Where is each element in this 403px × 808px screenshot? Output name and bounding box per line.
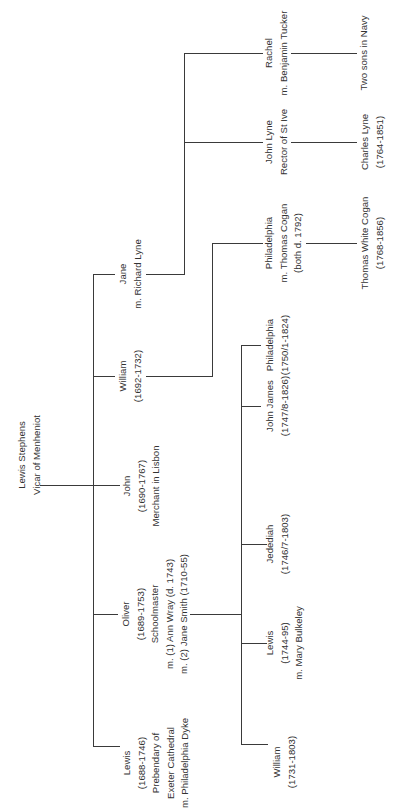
person-rachel: Rachel m. Benjamin Tucker: [262, 11, 291, 96]
root-connector: [40, 485, 93, 486]
stub-john-lyne: [184, 142, 263, 143]
person-philadelphia-cogan: Philadelphia m. Thomas Cogan (both d. 17…: [262, 204, 306, 283]
person-john: John (1690-1767) Merchant in Lisbon: [120, 445, 164, 526]
person-oliver: Oliver (1689-1753) Schoolmaster m. (1) A…: [119, 554, 192, 674]
stub-john: [93, 485, 120, 486]
person-william: William (1692-1732): [116, 350, 145, 402]
jane-connector: [146, 274, 185, 275]
stub-william: [93, 376, 115, 377]
stub-william-o: [241, 744, 268, 745]
stub-jane: [93, 274, 115, 275]
philadelphia-to-thomas: [306, 243, 357, 244]
stub-philadelphia-cogan: [212, 243, 263, 244]
stub-lewis: [93, 746, 120, 747]
stub-philadelphia-o: [241, 345, 261, 346]
person-john-lyne: John Lyne Rector of St Ive: [262, 109, 291, 175]
jane-spine: [184, 53, 185, 275]
person-charles-lyne: Charles Lyne (1764-1851): [358, 114, 387, 170]
stub-oliver: [93, 614, 118, 615]
person-jedediah: Jedediah (1746/7-1803): [263, 514, 292, 574]
william-spine: [212, 243, 213, 377]
person-two-sons: Two sons in Navy: [357, 15, 372, 90]
oliver-spine: [241, 345, 242, 745]
john-lyne-to-charles: [291, 142, 357, 143]
person-lewis-stephens: Lewis Stephens Vicar of Menheniot: [15, 415, 44, 495]
stub-john-james: [241, 406, 261, 407]
stub-rachel: [184, 53, 263, 54]
rachel-to-two-sons: [291, 53, 357, 54]
person-william-o: William (1731-1803): [270, 736, 299, 788]
person-philadelphia-o: Philadelphia (1750/1-1824): [263, 315, 292, 375]
oliver-connector: [190, 614, 242, 615]
person-lewis: Lewis (1688-1746) Prebendary of Exeter C…: [120, 718, 193, 808]
person-jane: Jane m. Richard Lyne: [116, 239, 145, 309]
person-thomas-white-cogan: Thomas White Cogan (1768-1856): [358, 197, 387, 290]
person-lewis-o: Lewis (1744-95) m. Mary Bulkeley: [263, 606, 307, 680]
william-connector: [146, 376, 213, 377]
person-john-james: John James (1747/8-1826): [263, 376, 292, 436]
gen1-spine: [93, 274, 94, 747]
